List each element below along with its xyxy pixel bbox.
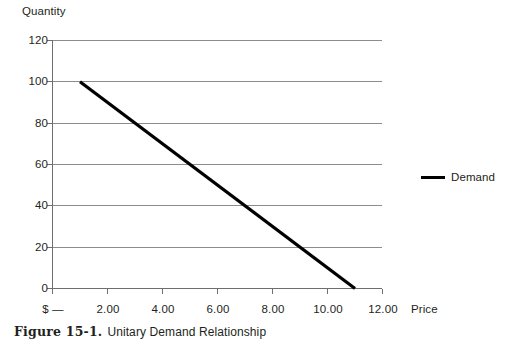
y-tick-label: 40 — [14, 199, 48, 212]
x-tick-label: 6.00 — [188, 303, 248, 316]
y-tick-label: 20 — [14, 241, 48, 254]
y-tick-label: 120 — [14, 34, 48, 47]
series-line-demand — [80, 82, 355, 289]
figure-container: Quantity — [0, 0, 519, 344]
y-tick-label: 100 — [14, 75, 48, 88]
figure-number: Figure 15-1. — [14, 324, 102, 339]
x-tick-label: 2.00 — [78, 303, 138, 316]
x-axis-ticks — [53, 289, 383, 295]
y-tick-label: 60 — [14, 158, 48, 171]
figure-caption: Figure 15-1.Unitary Demand Relationship — [14, 324, 266, 340]
x-tick-label: 8.00 — [243, 303, 303, 316]
legend-swatch-demand — [421, 176, 445, 179]
gridlines — [52, 41, 382, 248]
chart-legend: Demand — [421, 171, 495, 184]
x-tick-label: $ — — [23, 303, 83, 316]
y-tick-label: 80 — [14, 117, 48, 130]
legend-label-demand: Demand — [451, 171, 495, 184]
figure-title: Unitary Demand Relationship — [107, 325, 266, 339]
x-tick-label: 4.00 — [133, 303, 193, 316]
x-axis-title: Price — [411, 303, 438, 316]
x-tick-label: 10.00 — [298, 303, 358, 316]
y-tick-label: 0 — [14, 282, 48, 295]
x-tick-label: 12.00 — [353, 303, 413, 316]
